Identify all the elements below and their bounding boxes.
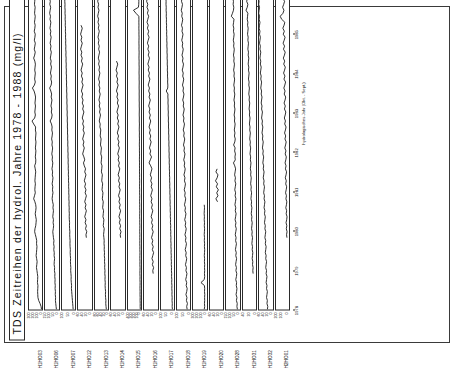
y-tick-label: 40: [241, 312, 245, 340]
panel-label-h1ho13: H1HO13: [103, 338, 108, 368]
y-tick-label: 0: [56, 312, 60, 340]
panel-label-h1ho14: H1HO14: [120, 338, 125, 368]
panel-plot-h2ho01: [274, 0, 289, 310]
y-tick-label: 100: [60, 312, 64, 340]
y-tick-label: 100: [35, 312, 39, 340]
y-tick-label: 20: [216, 312, 220, 340]
y-tick-label: 50: [181, 312, 185, 340]
y-tick-label: 0: [138, 312, 142, 340]
panel-label-h1ho12: H1HO12: [87, 338, 92, 368]
panel-plot-h1ho14: [110, 0, 125, 310]
y-tick-label: 50: [165, 312, 169, 340]
panel-plot-h1ho19: [192, 0, 207, 310]
panel-label-h1ho17: H1HO17: [169, 338, 174, 368]
panel-plot-h1ho17: [159, 0, 174, 310]
plot-inner: TDS Zeitreihen der hydrol. Jahre 1978 - …: [5, 0, 342, 343]
y-tick-label: 0: [220, 312, 224, 340]
y-tick-label: 20: [247, 312, 251, 340]
y-tick-label: 100: [200, 312, 204, 340]
y-tick-label: 0: [105, 312, 109, 340]
y-tick-label: 100: [175, 312, 179, 340]
panel-stack: 3002001000H1HO03150100500H1HO06100500H1H…: [28, 0, 308, 340]
panel-plot-h1ho28: [225, 0, 240, 310]
panel-label-h1ho15: H1HO15: [136, 338, 141, 368]
panel-label-h1ho32: H1HO32: [267, 338, 272, 368]
panel-label-h1ho31: H1HO31: [251, 338, 256, 368]
y-tick-label: 0: [171, 312, 175, 340]
panel-plot-h1ho31: [241, 0, 256, 310]
x-tick-label: 1980: [294, 227, 299, 236]
panel-plot-h1ho32: [258, 0, 273, 310]
x-tick-label: 1985: [294, 30, 299, 39]
panel-label-h1ho07: H1HO07: [70, 338, 75, 368]
y-tick-label: 0: [187, 312, 191, 340]
x-tick-label: 1978: [294, 305, 299, 314]
y-tick-label: 0: [237, 312, 241, 340]
panel-plot-h1ho15: [126, 0, 141, 310]
y-tick-label: 0: [154, 312, 158, 340]
plot-rotated-container: TDS Zeitreihen der hydrol. Jahre 1978 - …: [5, 6, 451, 343]
chart-title: TDS Zeitreihen der hydrol. Jahre 1978 - …: [11, 32, 23, 334]
y-tick-label: 0: [72, 312, 76, 340]
x-tick-label: 1984: [294, 69, 299, 78]
panel-plot-h1ho13: [93, 0, 108, 310]
panel-label-h1ho16: H1HO16: [152, 338, 157, 368]
y-tick-label: 0: [204, 312, 208, 340]
y-tick-label: 0: [89, 312, 93, 340]
y-tick-label: 200: [274, 312, 278, 340]
y-tick-label: 0: [286, 312, 290, 340]
panel-plot-h1ho03: [28, 0, 43, 310]
panel-label-h1ho19: H1HO19: [202, 338, 207, 368]
panel-label-h1ho20: H1HO20: [218, 338, 223, 368]
y-tick-label: 100: [159, 312, 163, 340]
y-tick-label: 0: [122, 312, 126, 340]
x-tick-label: 1982: [294, 148, 299, 157]
panel-plot-h1ho12: [77, 0, 92, 310]
panel-plot-h1ho20: [208, 0, 223, 310]
panel-label-h2ho01: H2HO01: [284, 338, 289, 368]
y-tick-label: 20: [85, 312, 89, 340]
panel-label-h1ho28: H1HO28: [235, 338, 240, 368]
x-axis: 1978197919801981198219831984198519861987…: [293, 0, 311, 310]
x-tick-label: 1979: [294, 266, 299, 275]
panel-label-h1ho18: H1HO18: [185, 338, 190, 368]
chart-title-box: TDS Zeitreihen der hydrol. Jahre 1978 - …: [9, 0, 25, 340]
x-axis-title: hydrologisches Jahr (Okt. - Sept.): [301, 82, 306, 144]
y-tick-label: 100: [280, 312, 284, 340]
y-tick-label: 20: [150, 312, 154, 340]
x-tick-label: 1983: [294, 108, 299, 117]
panel-label-h1ho06: H1HO06: [54, 338, 59, 368]
y-tick-label: 0: [253, 312, 257, 340]
panel-plot-h1ho18: [175, 0, 190, 310]
panel-plot-h1ho16: [143, 0, 158, 310]
y-tick-label: 0: [269, 312, 273, 340]
panel-plot-h1ho06: [44, 0, 59, 310]
panel-plot-h1ho07: [60, 0, 75, 310]
y-tick-label: 50: [233, 312, 237, 340]
y-tick-label: 50: [52, 312, 56, 340]
y-tick-label: 20: [266, 312, 270, 340]
x-tick-label: 1981: [294, 187, 299, 196]
y-tick-label: 0: [39, 312, 43, 340]
y-tick-label: 50: [66, 312, 70, 340]
y-tick-label: 20: [118, 312, 122, 340]
panel-label-h1ho03: H1HO03: [37, 338, 42, 368]
